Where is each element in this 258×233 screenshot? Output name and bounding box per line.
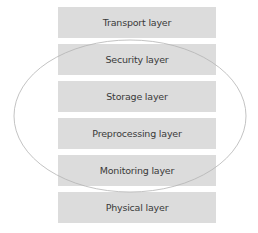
layer-label: Physical layer bbox=[106, 202, 169, 213]
storage-layer-box: Storage layer bbox=[58, 81, 216, 112]
layer-label: Security layer bbox=[105, 54, 168, 65]
layer-label: Transport layer bbox=[103, 17, 171, 28]
monitoring-layer-box: Monitoring layer bbox=[58, 155, 216, 186]
transport-layer-box: Transport layer bbox=[58, 7, 216, 38]
layer-label: Preprocessing layer bbox=[92, 128, 181, 139]
layer-label: Monitoring layer bbox=[100, 165, 174, 176]
preprocessing-layer-box: Preprocessing layer bbox=[58, 118, 216, 149]
layer-label: Storage layer bbox=[106, 91, 167, 102]
security-layer-box: Security layer bbox=[58, 44, 216, 75]
physical-layer-box: Physical layer bbox=[58, 192, 216, 223]
